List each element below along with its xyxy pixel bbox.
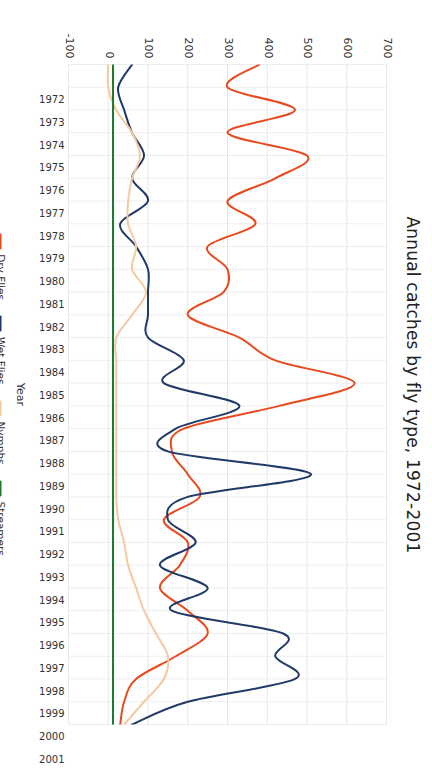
x-tick-label: 1992 [39, 549, 64, 560]
x-tick-label: 1997 [39, 662, 64, 673]
x-tick-label: 1998 [39, 685, 64, 696]
x-tick-label: 1990 [39, 503, 64, 514]
legend-item[interactable]: Nymphs [0, 400, 6, 464]
y-tick-label: 100 [142, 18, 155, 58]
y-tick-label: -100 [62, 18, 75, 58]
legend-item[interactable]: Wet Flies [0, 315, 6, 384]
x-tick-label: 1988 [39, 458, 64, 469]
legend-swatch [0, 233, 1, 249]
x-tick-label: 2000 [39, 731, 64, 742]
y-tick-label: 600 [340, 18, 353, 58]
x-tick-label: 1999 [39, 708, 64, 719]
legend-label: Nymphs [0, 421, 6, 464]
x-tick-label: 1995 [39, 617, 64, 628]
x-tick-label: 1987 [39, 435, 64, 446]
y-tick-label: 500 [301, 18, 314, 58]
legend-swatch [0, 480, 1, 496]
legend-label: Wet Flies [0, 336, 6, 384]
legend-swatch [0, 315, 1, 331]
plot-area [68, 64, 386, 724]
x-tick-label: 1993 [39, 571, 64, 582]
chart-title: Annual catches by fly type, 1972-2001 [402, 0, 422, 769]
legend-label: Streamers [0, 501, 6, 555]
x-tick-label: 1980 [39, 276, 64, 287]
x-tick-label: 1978 [39, 230, 64, 241]
chart-page: Annual catches by fly type, 1972-2001 Tr… [0, 0, 432, 769]
x-tick-label: 1975 [39, 162, 64, 173]
x-tick-label: 1986 [39, 412, 64, 423]
legend-swatch [0, 400, 1, 416]
x-tick-label: 1991 [39, 526, 64, 537]
x-tick-label: 1981 [39, 298, 64, 309]
y-tick-label: 300 [221, 18, 234, 58]
plot-svg [68, 64, 386, 724]
chart-legend: Dry FliesWet FliesNymphsStreamers [0, 64, 6, 724]
y-tick-label: 200 [181, 18, 194, 58]
legend-item[interactable]: Streamers [0, 480, 6, 555]
x-tick-label: 1979 [39, 253, 64, 264]
x-tick-label: 1982 [39, 321, 64, 332]
x-tick-label: 1976 [39, 184, 64, 195]
legend-item[interactable]: Dry Flies [0, 233, 6, 300]
x-tick-label: 1985 [39, 389, 64, 400]
x-tick-label: 1996 [39, 640, 64, 651]
y-tick-label: 400 [261, 18, 274, 58]
y-tick-label: 0 [102, 18, 115, 58]
y-tick-label: 700 [380, 18, 393, 58]
x-axis-label: Year [13, 64, 26, 724]
x-tick-label: 1977 [39, 207, 64, 218]
x-tick-label: 1973 [39, 116, 64, 127]
x-tick-label: 1974 [39, 139, 64, 150]
x-tick-label: 2001 [39, 753, 64, 764]
legend-label: Dry Flies [0, 254, 6, 300]
x-tick-label: 1983 [39, 344, 64, 355]
x-tick-label: 1989 [39, 480, 64, 491]
x-tick-label: 1984 [39, 367, 64, 378]
x-tick-label: 1972 [39, 93, 64, 104]
x-tick-label: 1994 [39, 594, 64, 605]
rotated-chart-container: Annual catches by fly type, 1972-2001 Tr… [0, 0, 432, 769]
